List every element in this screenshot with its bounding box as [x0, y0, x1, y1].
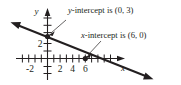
x-intercept-callout-rest: -intercept is (6, 0) — [85, 30, 147, 40]
x-tick-label-4: 4 — [70, 64, 75, 74]
x-tick-label-2: 2 — [58, 64, 63, 74]
y-intercept-callout-rest: -intercept is (0, 3) — [72, 5, 134, 15]
graph-figure: y x -2 2 4 6 2 y-intercept is (0, 3) x-i… — [0, 0, 181, 85]
x-tick-label-neg2: -2 — [26, 64, 34, 74]
y-intercept-callout: y-intercept is (0, 3) — [67, 5, 134, 15]
x-axis-label: x — [120, 63, 125, 73]
x-tick-label-6: 6 — [83, 64, 88, 74]
y-tick-label-2: 2 — [38, 39, 43, 49]
x-intercept-callout: x-intercept is (6, 0) — [80, 30, 147, 40]
y-axis-label: y — [34, 6, 39, 16]
text-layer-svg: y x -2 2 4 6 2 y-intercept is (0, 3) x-i… — [0, 0, 181, 85]
